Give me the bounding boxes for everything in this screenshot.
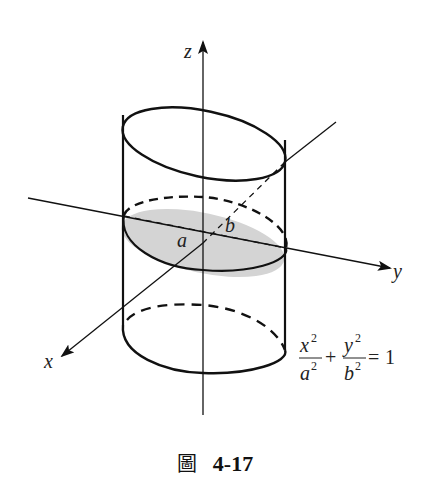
equation: x 2 a 2 + y 2 b 2 = 1 <box>299 331 395 384</box>
x-axis-back <box>285 122 336 162</box>
svg-text:2: 2 <box>355 331 361 345</box>
x-axis-label: x <box>43 350 53 372</box>
svg-text:=: = <box>368 346 379 368</box>
cylinder-bottom-front <box>123 325 286 373</box>
svg-text:+: + <box>325 346 336 368</box>
caption-glyph: 圖 <box>177 452 197 476</box>
y-axis-label: y <box>391 260 402 283</box>
label-a: a <box>177 229 187 251</box>
svg-text:1: 1 <box>385 346 395 368</box>
svg-text:y: y <box>342 334 353 357</box>
x-axis <box>62 243 203 356</box>
svg-text:2: 2 <box>311 359 317 373</box>
svg-text:x: x <box>299 334 309 356</box>
svg-text:2: 2 <box>311 331 317 345</box>
svg-text:a: a <box>300 362 310 384</box>
svg-text:b: b <box>344 362 354 384</box>
elliptic-cylinder-diagram: z y x a b x 2 a 2 + y 2 b 2 = 1 <box>0 0 430 497</box>
z-axis-label: z <box>183 40 192 62</box>
caption-number: 4-17 <box>213 451 253 476</box>
cylinder-top-ellipse <box>116 94 292 193</box>
label-b: b <box>225 214 235 236</box>
figure-caption: 圖4-17 <box>0 448 430 477</box>
svg-text:2: 2 <box>355 359 361 373</box>
cylinder-bottom-back <box>127 304 285 350</box>
